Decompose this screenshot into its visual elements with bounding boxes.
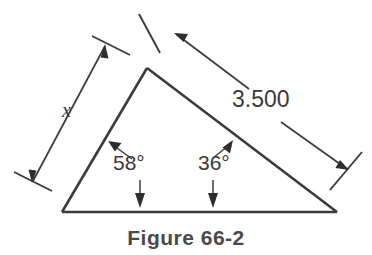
angle-left-label: 58°	[113, 152, 145, 173]
triangle-left-side-line	[62, 68, 147, 212]
dimension-length-line-lower	[281, 122, 347, 169]
dimension-length-extension-tick-top	[139, 14, 160, 53]
triangle-diagram	[0, 0, 372, 255]
figure-container: 3.500 58° 36° x Figure 66-2	[0, 0, 372, 255]
dimension-x-extension-tick-top	[92, 36, 130, 55]
angle-right-arrowhead-base	[208, 193, 218, 208]
side-length-label: 3.500	[232, 88, 290, 111]
dimension-length-line-upper	[176, 34, 249, 89]
triangle-outline	[62, 68, 337, 212]
unknown-side-label: x	[62, 100, 71, 120]
dimension-length-extension-tick-bottom	[330, 152, 362, 190]
angle-right-label: 36°	[198, 152, 230, 173]
figure-caption: Figure 66-2	[0, 226, 372, 250]
angle-left-arrowhead-base	[135, 193, 145, 208]
